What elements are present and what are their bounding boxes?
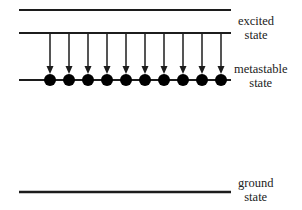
particle-dot-3 [82, 74, 94, 86]
label-metastable-state: metastable state [234, 62, 287, 90]
label-excited-state-line1: excited [238, 14, 274, 28]
particle-dot-5 [120, 74, 132, 86]
transition-arrow-head-1 [47, 66, 54, 74]
particle-dot-10 [215, 74, 227, 86]
transition-arrow-head-5 [123, 66, 130, 74]
particle-dot-6 [139, 74, 151, 86]
transition-arrow-head-6 [142, 66, 149, 74]
particle-dot-1 [44, 74, 56, 86]
label-ground-state: ground state [238, 176, 273, 204]
label-excited-state: excited state [238, 14, 274, 42]
decay-transition-arrows-group [47, 34, 225, 74]
particle-dot-9 [196, 74, 208, 86]
particle-dot-8 [177, 74, 189, 86]
label-ground-state-line1: ground [238, 176, 273, 190]
label-metastable-state-line1: metastable [234, 62, 287, 76]
transition-arrow-head-9 [199, 66, 206, 74]
label-ground-state-line2: state [238, 190, 273, 204]
transition-arrow-head-2 [66, 66, 73, 74]
label-excited-state-line2: state [238, 28, 274, 42]
transition-arrow-head-7 [161, 66, 168, 74]
label-metastable-state-line2: state [234, 76, 287, 90]
particle-dot-4 [101, 74, 113, 86]
transition-arrow-head-3 [85, 66, 92, 74]
particle-dot-2 [63, 74, 75, 86]
energy-level-diagram: excited state metastable state ground st… [0, 0, 302, 210]
transition-arrow-head-4 [104, 66, 111, 74]
transition-arrow-head-8 [180, 66, 187, 74]
transition-arrow-head-10 [218, 66, 225, 74]
particle-dot-7 [158, 74, 170, 86]
energy-levels-group [19, 10, 231, 192]
